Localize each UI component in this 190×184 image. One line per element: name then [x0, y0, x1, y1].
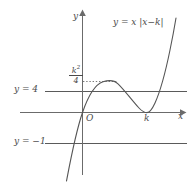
x-axis-label: x	[178, 112, 183, 121]
origin-label: O	[86, 114, 93, 123]
y-axis-label: y	[73, 12, 78, 21]
local-max-numerator: k2	[66, 67, 86, 75]
graph-figure: y = x |x−k| y = 4 y = −1 O k x y k2 4	[0, 0, 190, 184]
curve-equation-label: y = x |x−k|	[113, 18, 163, 27]
local-max-denominator: 4	[66, 76, 86, 85]
line-y4-label: y = 4	[14, 85, 38, 94]
local-max-value-label: k2 4	[66, 67, 86, 86]
x-tick-k-label: k	[144, 114, 149, 123]
local-max-numerator-exponent: 2	[77, 64, 80, 70]
line-ym1-label: y = −1	[14, 137, 46, 146]
y-axis-arrow-icon	[79, 10, 86, 17]
